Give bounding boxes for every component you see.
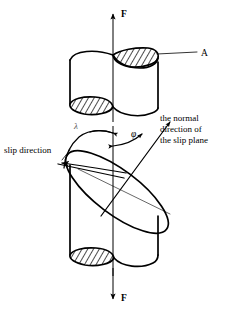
lower-bottom-front-edge bbox=[114, 255, 158, 266]
phi-angle-label: φ bbox=[131, 129, 136, 139]
lower-cylinder bbox=[54, 137, 180, 266]
slip-direction-label: slip direction bbox=[4, 145, 52, 155]
force-label-bottom: F bbox=[121, 293, 127, 303]
upper-bottom-front-edge bbox=[113, 107, 158, 116]
slip-plane-outline bbox=[54, 137, 180, 247]
normal-label-line2: direction of bbox=[160, 124, 202, 134]
normal-label-line1: the normal bbox=[160, 113, 199, 123]
upper-cylinder bbox=[70, 48, 158, 116]
normal-direction-label-group: the normal direction of the slip plane bbox=[160, 113, 208, 145]
normal-label-line3: the slip plane bbox=[160, 135, 208, 145]
diagram-canvas: A F F φ λ slip direction the normal dire… bbox=[0, 0, 227, 314]
lambda-angle-arc bbox=[64, 131, 113, 168]
upper-top-back-edge bbox=[70, 51, 113, 60]
lambda-angle-label: λ bbox=[73, 121, 78, 131]
slip-plane-ellipse bbox=[54, 137, 180, 247]
slip-diagram-figure: A F F φ λ slip direction the normal dire… bbox=[0, 0, 227, 314]
upper-bottom-hatched-face bbox=[70, 97, 113, 115]
phi-angle-arc bbox=[113, 134, 142, 146]
lower-bottom-hatched-face bbox=[70, 248, 114, 266]
force-label-top: F bbox=[121, 9, 127, 19]
phi-angle-group bbox=[113, 134, 142, 146]
area-leader-line bbox=[157, 52, 197, 54]
slip-plane-trace-line bbox=[78, 169, 170, 214]
area-label-group: A bbox=[157, 48, 208, 58]
cross-section-area-A bbox=[113, 48, 158, 67]
lambda-angle-group bbox=[64, 131, 113, 168]
area-label: A bbox=[201, 48, 208, 58]
